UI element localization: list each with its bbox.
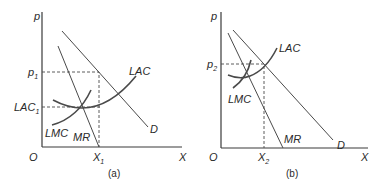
panel-b-mr-curve [228,33,283,148]
panel-b-origin-label: O [209,151,218,163]
panel-b-x-label: X [360,151,369,163]
panel-b-quantity-label: X2 [257,151,269,165]
monopolistic-competition-diagram: p p1 LAC1 LAC D LMC MR O X1 X (a) p p2 L… [0,0,375,187]
panel-a: p p1 LAC1 LAC D LMC MR O X1 X (a) [14,10,187,179]
panel-b-lmc-label: LMC [228,93,251,105]
panel-a-lac-label: LAC [129,65,150,77]
panel-a-lmc-label: LMC [45,127,68,139]
panel-a-lac1-label: LAC1 [14,101,39,115]
panel-a-lac-curve [53,76,136,108]
panel-b-demand-label: D [337,139,345,151]
panel-b-lac-curve [228,48,277,78]
panel-b: p p2 LAC LMC MR D O X2 X (b) [206,10,369,179]
panel-b-y-label: p [210,10,217,22]
panel-b-price-guide [221,64,264,148]
panel-b-lac-label: LAC [279,42,300,54]
panel-a-origin-label: O [29,151,38,163]
panel-a-quantity-label: X1 [92,151,104,165]
panel-a-mr-label: MR [73,131,90,143]
panel-a-x-label: X [178,151,187,163]
panel-a-caption: (a) [108,168,120,179]
panel-b-mr-label: MR [284,133,301,145]
panel-b-price-label: p2 [206,58,217,72]
panel-b-caption: (b) [286,168,298,179]
panel-a-y-label: p [33,10,40,22]
panel-a-demand-label: D [150,123,158,135]
panel-a-price-label: p1 [27,66,38,80]
